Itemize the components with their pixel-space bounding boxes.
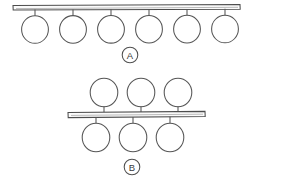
figure-drawing: A xyxy=(0,0,294,177)
node-a-below-4 xyxy=(136,15,163,43)
node-b-above-3 xyxy=(164,78,192,107)
panel-b-nodes-below xyxy=(82,123,184,152)
node-b-below-3 xyxy=(156,123,184,152)
panel-a-nodes-below xyxy=(22,15,239,43)
node-a-below-2 xyxy=(60,16,87,44)
panel-a-label: A xyxy=(122,47,138,63)
node-b-above-2 xyxy=(127,78,155,107)
panel-a: A xyxy=(13,5,240,63)
figure-canvas: A xyxy=(0,0,294,177)
panel-b-label-text: B xyxy=(129,162,136,173)
backbone-bar-a xyxy=(13,5,240,10)
node-a-below-5 xyxy=(174,15,201,43)
node-b-below-2 xyxy=(119,123,147,152)
panel-b-nodes-above xyxy=(90,78,192,107)
panel-b: B xyxy=(68,78,205,175)
node-b-above-1 xyxy=(90,78,118,107)
panel-b-label: B xyxy=(124,159,140,175)
node-a-below-1 xyxy=(22,16,49,44)
node-a-below-6 xyxy=(212,15,239,43)
backbone-bar-b xyxy=(68,111,205,117)
node-b-below-1 xyxy=(82,123,110,152)
node-a-below-3 xyxy=(98,15,125,43)
panel-a-label-text: A xyxy=(127,50,134,61)
